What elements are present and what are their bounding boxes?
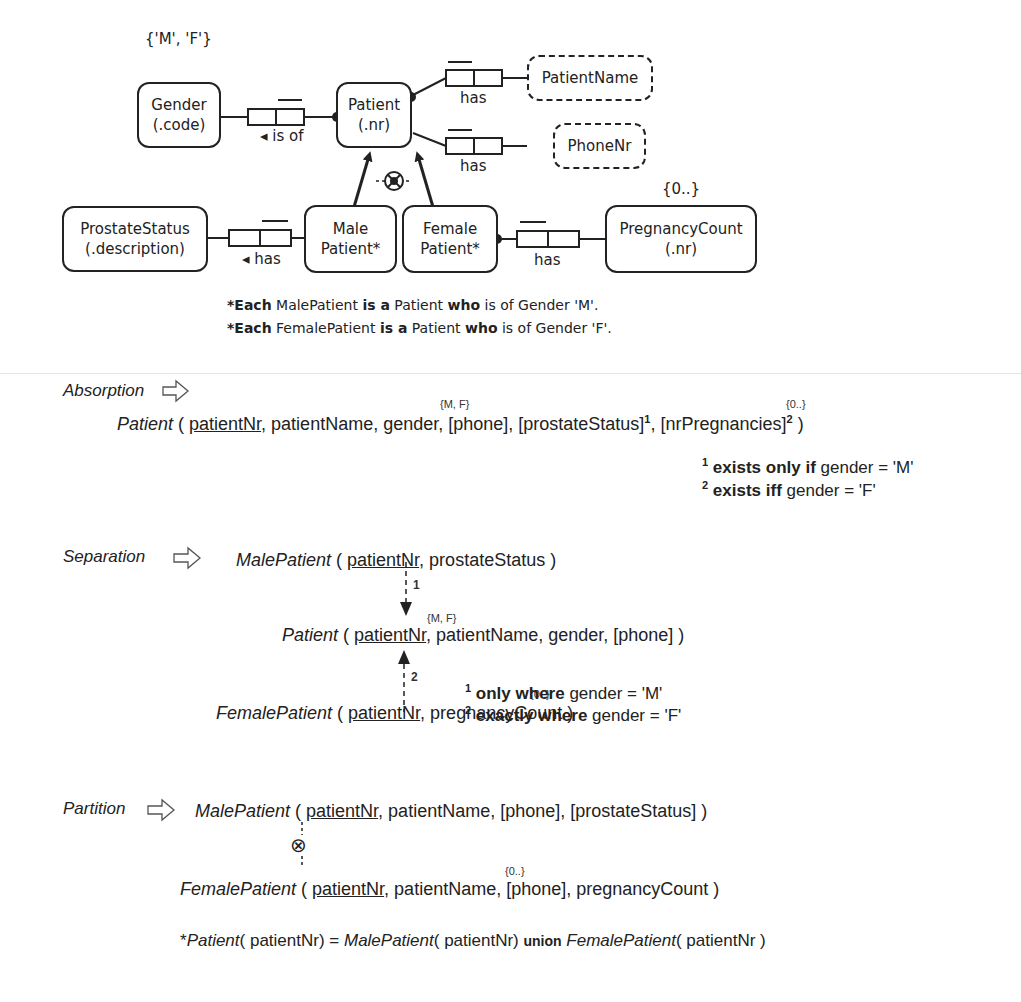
separation-footnote-1: 1 only where gender = 'M' [465, 682, 662, 704]
gender-value-constraint: {'M', 'F'} [145, 30, 212, 48]
separation-label: Separation [63, 547, 145, 567]
entity-name: Gender [151, 95, 206, 115]
entity-ref: (.nr) [358, 115, 390, 135]
value-type-patient-name[interactable]: PatientName [527, 55, 653, 101]
entity-male-patient[interactable]: Male Patient* [304, 205, 397, 273]
fact-type-label-has-pregnancy: has [534, 251, 561, 269]
separation-arrow-icon [174, 548, 200, 568]
entity-name: PhoneNr [568, 136, 632, 156]
partition-union-rule: *Patient( patientNr) = MalePatient( pati… [180, 931, 766, 951]
entity-name: Female [423, 219, 477, 239]
fact-type-label-has-name: has [460, 89, 487, 107]
primary-key: patientNr [312, 879, 384, 899]
fact-type-label-has-prostate: ◂ has [242, 250, 281, 268]
subtype-definition-male: *Each MalePatient is a Patient who is of… [227, 297, 598, 313]
entity-name-line2: Patient* [321, 239, 381, 259]
entity-female-patient[interactable]: Female Patient* [402, 205, 498, 273]
entity-pregnancy-count[interactable]: PregnancyCount (.nr) [605, 205, 757, 273]
entity-name-line2: Patient* [420, 239, 480, 259]
absorption-footnote-2: 2 exists iff gender = 'F' [702, 479, 876, 501]
primary-key: patientNr [347, 550, 419, 570]
entity-ref: (.description) [85, 239, 185, 259]
absorption-patient-relation: Patient ( patientNr, patientName, gender… [117, 413, 804, 435]
primary-key: patientNr [306, 801, 378, 821]
absorption-label: Absorption [63, 381, 144, 401]
entity-ref: (.code) [153, 115, 206, 135]
separation-footnote-2: 2 exactly where gender = 'F' [465, 704, 681, 726]
partition-male-relation: MalePatient ( patientNr, patientName, [p… [195, 801, 707, 822]
partition-arrow-icon [148, 800, 174, 820]
separation-patient-relation: Patient ( patientNr, patientName, gender… [282, 625, 684, 646]
value-type-phone-nr[interactable]: PhoneNr [553, 123, 646, 169]
partition-count-constraint: {0..} [505, 865, 525, 877]
separation-male-relation: MalePatient ( patientNr, prostateStatus … [236, 550, 556, 571]
fact-type-label-has-phone: has [460, 157, 487, 175]
fact-type-label-is-of: ◂ is of [260, 127, 304, 145]
subtype-definition-female: *Each FemalePatient is a Patient who is … [227, 320, 612, 336]
section-divider [0, 373, 1021, 374]
separation-arrow-label-2: 2 [411, 670, 418, 684]
separation-gender-constraint: {M, F} [427, 612, 456, 624]
entity-name: Patient [348, 95, 400, 115]
partition-female-relation: FemalePatient ( patientNr, patientName, … [180, 879, 719, 900]
primary-key: patientNr [189, 414, 261, 434]
absorption-footnote-1: 1 exists only if gender = 'M' [702, 456, 914, 478]
primary-key: patientNr [354, 625, 426, 645]
partition-label: Partition [63, 799, 125, 819]
pregnancy-count-value-constraint: {0..} [662, 180, 700, 198]
entity-gender[interactable]: Gender (.code) [137, 82, 221, 148]
entity-patient[interactable]: Patient (.nr) [336, 82, 412, 148]
absorption-gender-constraint: {M, F} [440, 398, 469, 410]
entity-prostate-status[interactable]: ProstateStatus (.description) [62, 206, 208, 272]
entity-name: PregnancyCount [619, 219, 742, 239]
primary-key: patientNr [348, 703, 420, 723]
entity-ref: (.nr) [665, 239, 697, 259]
entity-name: ProstateStatus [80, 219, 190, 239]
entity-name: PatientName [542, 68, 638, 88]
absorption-count-constraint: {0..} [786, 398, 806, 410]
absorption-arrow-icon [163, 381, 188, 401]
separation-arrow-label-1: 1 [413, 578, 420, 592]
exclusion-icon: ⊗ [290, 833, 307, 857]
entity-name: Male [333, 219, 369, 239]
